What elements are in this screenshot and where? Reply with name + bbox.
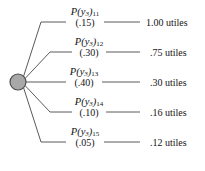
- branch-prob-value-4: (.10): [62, 108, 116, 118]
- branch-prob-value-3: (.40): [57, 78, 111, 88]
- utility-label-2: .75 utiles: [150, 47, 187, 58]
- branch-label-3: P(y3)13 (.40): [57, 67, 111, 88]
- branch-label-1: P(y3)11 (.15): [58, 7, 112, 28]
- chance-node-circle: [10, 74, 26, 90]
- branch-prob-value-1: (.15): [58, 18, 112, 28]
- branch-label-2: P(y3)12 (.30): [62, 37, 116, 58]
- branch-prob-value-5: (.05): [58, 138, 112, 148]
- utility-label-3: .30 utiles: [150, 77, 187, 88]
- utility-label-1: 1.00 utiles: [146, 17, 188, 28]
- branch-prob-value-2: (.30): [62, 48, 116, 58]
- decision-tree-figure: P(y3)11 (.15) P(y3)12 (.30) P(y3)13 (.40…: [0, 0, 205, 171]
- branch-label-4: P(y3)14 (.10): [62, 97, 116, 118]
- branch-label-5: P(y3)15 (.05): [58, 127, 112, 148]
- utility-label-4: .16 utiles: [150, 107, 187, 118]
- utility-label-5: .12 utiles: [150, 137, 187, 148]
